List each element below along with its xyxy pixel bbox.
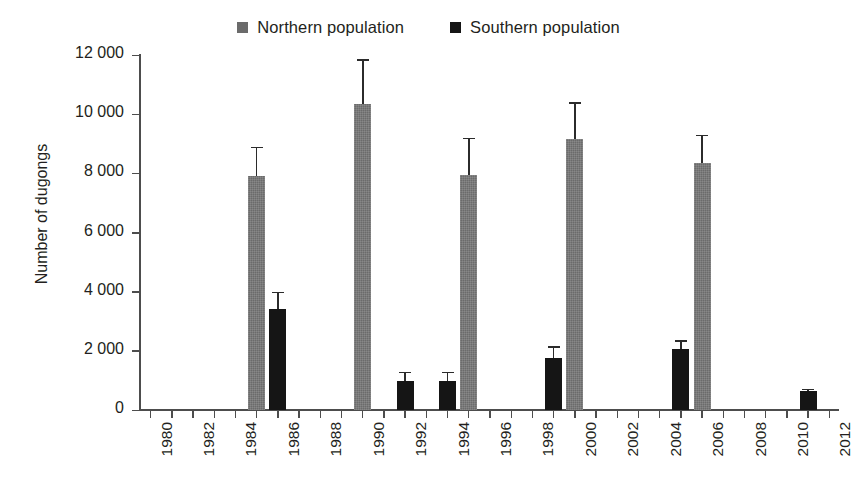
bar-south-1992: [397, 381, 414, 410]
x-tick: [468, 410, 469, 418]
y-tick: [132, 410, 140, 412]
x-tick: [256, 410, 257, 418]
x-tick: [574, 410, 575, 418]
error-bar-cap-1995: [463, 138, 475, 140]
x-tick: [447, 410, 448, 418]
x-tick-label: 2004: [667, 422, 685, 456]
error-bar-cap-1986: [272, 292, 284, 294]
y-tick-label: 2 000: [0, 340, 124, 358]
y-tick-label: 12 000: [0, 44, 124, 62]
x-tick: [786, 410, 787, 418]
x-tick-label: 1986: [285, 422, 303, 456]
x-tick: [341, 410, 342, 418]
y-tick-label: 8 000: [0, 162, 124, 180]
error-bar-stem-1985: [256, 147, 258, 177]
x-tick: [277, 410, 278, 418]
y-tick: [132, 114, 140, 116]
x-tick-label: 2012: [836, 422, 854, 456]
y-axis-title: Number of dugongs: [33, 84, 51, 344]
error-bar-cap-1990: [357, 59, 369, 61]
legend-swatch-southern: [450, 22, 461, 33]
x-tick: [320, 410, 321, 418]
x-tick: [171, 410, 172, 418]
error-bar-cap-1994: [442, 372, 454, 374]
x-tick: [214, 410, 215, 418]
x-tick: [765, 410, 766, 418]
x-tick: [383, 410, 384, 418]
x-tick: [829, 410, 830, 418]
error-bar-cap-1992: [399, 372, 411, 374]
y-tick-label: 10 000: [0, 103, 124, 121]
x-tick-label: 2008: [752, 422, 770, 456]
y-tick: [132, 232, 140, 234]
x-tick: [404, 410, 405, 418]
error-bar-stem-1995: [468, 138, 470, 175]
x-tick-label: 1994: [455, 422, 473, 456]
chart-legend: Northern population Southern population: [0, 18, 857, 37]
legend-label-southern: Southern population: [470, 18, 620, 37]
error-bar-stem-1986: [277, 292, 279, 310]
legend-swatch-northern: [237, 22, 248, 33]
x-tick: [680, 410, 681, 418]
x-tick: [701, 410, 702, 418]
x-tick-label: 1996: [497, 422, 515, 456]
x-tick: [617, 410, 618, 418]
bar-north-1990: [354, 104, 371, 410]
x-tick-label: 1998: [539, 422, 557, 456]
legend-item-southern: Southern population: [450, 18, 620, 37]
y-tick: [132, 350, 140, 352]
x-tick-label: 1990: [370, 422, 388, 456]
bar-north-2006: [694, 163, 711, 410]
x-tick-label: 1984: [242, 422, 260, 456]
y-tick-label: 6 000: [0, 222, 124, 240]
error-bar-cap-1999: [548, 346, 560, 348]
x-tick: [235, 410, 236, 418]
x-tick: [489, 410, 490, 418]
bar-south-2011: [800, 391, 817, 410]
x-tick: [426, 410, 427, 418]
x-tick-label: 1982: [200, 422, 218, 456]
y-tick: [132, 291, 140, 293]
x-tick: [553, 410, 554, 418]
y-tick: [132, 173, 140, 175]
x-tick-label: 2010: [794, 422, 812, 456]
legend-item-northern: Northern population: [237, 18, 404, 37]
x-tick: [511, 410, 512, 418]
bar-south-1994: [439, 381, 456, 410]
x-tick: [532, 410, 533, 418]
x-tick: [638, 410, 639, 418]
x-tick-label: 1980: [158, 422, 176, 456]
bar-south-1986: [269, 309, 286, 410]
y-tick-label: 4 000: [0, 281, 124, 299]
error-bar-cap-2005: [675, 340, 687, 342]
error-bar-cap-1985: [251, 147, 263, 149]
x-tick: [723, 410, 724, 418]
y-tick-label: 0: [0, 399, 124, 417]
error-bar-stem-2006: [701, 135, 703, 163]
x-tick: [298, 410, 299, 418]
x-tick-label: 2006: [709, 422, 727, 456]
error-bar-cap-2006: [696, 135, 708, 137]
error-bar-stem-2000: [574, 102, 576, 139]
error-bar-stem-1999: [553, 346, 555, 358]
x-tick: [744, 410, 745, 418]
dugong-population-chart: Northern population Southern population …: [0, 0, 857, 494]
legend-label-northern: Northern population: [257, 18, 404, 37]
bar-south-2005: [672, 349, 689, 410]
bar-south-1999: [545, 358, 562, 410]
x-tick: [807, 410, 808, 418]
bar-north-2000: [566, 139, 583, 410]
x-tick-label: 2000: [582, 422, 600, 456]
bar-north-1995: [460, 175, 477, 410]
error-bar-cap-2011: [802, 389, 814, 391]
error-bar-stem-1990: [362, 59, 364, 103]
x-tick: [362, 410, 363, 418]
x-tick: [595, 410, 596, 418]
x-tick: [192, 410, 193, 418]
x-tick-label: 2002: [624, 422, 642, 456]
x-tick: [150, 410, 151, 418]
error-bar-cap-2000: [569, 102, 581, 104]
y-tick: [132, 55, 140, 57]
x-tick-label: 1988: [327, 422, 345, 456]
x-tick-label: 1992: [412, 422, 430, 456]
